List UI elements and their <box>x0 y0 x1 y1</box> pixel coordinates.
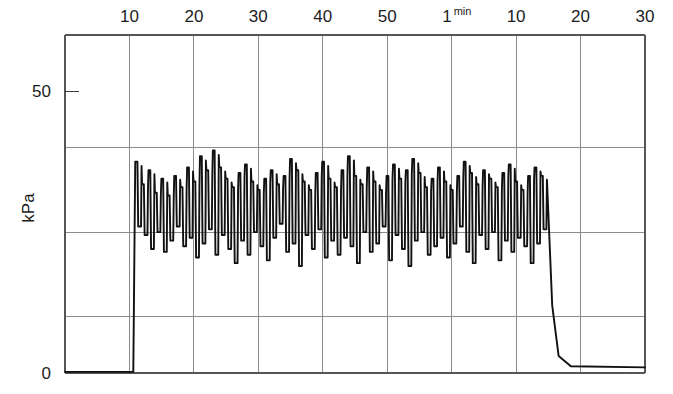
x-tick-label: 50 <box>378 7 397 26</box>
y-axis-title: kPa <box>19 193 38 223</box>
x-tick-label-text: 30 <box>249 7 268 26</box>
pressure-time-chart: 10203040501min102030 050 kPa <box>0 0 673 394</box>
plot-frame <box>65 35 645 373</box>
y-tick-label: 0 <box>42 364 51 383</box>
y-axis-tick-labels: 050 <box>32 82 51 383</box>
x-tick-label: 30 <box>249 7 268 26</box>
x-tick-label: 1min <box>442 5 471 26</box>
x-axis-tick-labels: 10203040501min102030 <box>120 5 654 26</box>
x-tick-label: 10 <box>507 7 526 26</box>
y-tick-label: 50 <box>32 82 51 101</box>
x-tick-label-superscript: min <box>454 5 472 17</box>
x-tick-label-text: 50 <box>378 7 397 26</box>
x-tick-label: 20 <box>184 7 203 26</box>
x-tick-label: 10 <box>120 7 139 26</box>
x-tick-label: 30 <box>636 7 655 26</box>
chart-canvas: 10203040501min102030 050 kPa <box>0 0 673 394</box>
pressure-waveform-path <box>65 150 645 371</box>
x-tick-label: 20 <box>571 7 590 26</box>
x-tick-label-text: 20 <box>184 7 203 26</box>
x-tick-label-text: 40 <box>313 7 332 26</box>
grid-layer <box>65 35 645 373</box>
x-tick-label-text: 10 <box>507 7 526 26</box>
x-tick-label-text: 10 <box>120 7 139 26</box>
x-tick-label-text: 30 <box>636 7 655 26</box>
x-tick-label: 40 <box>313 7 332 26</box>
pressure-trace <box>65 150 645 371</box>
x-tick-label-text: 1 <box>442 7 451 26</box>
x-tick-label-text: 20 <box>571 7 590 26</box>
